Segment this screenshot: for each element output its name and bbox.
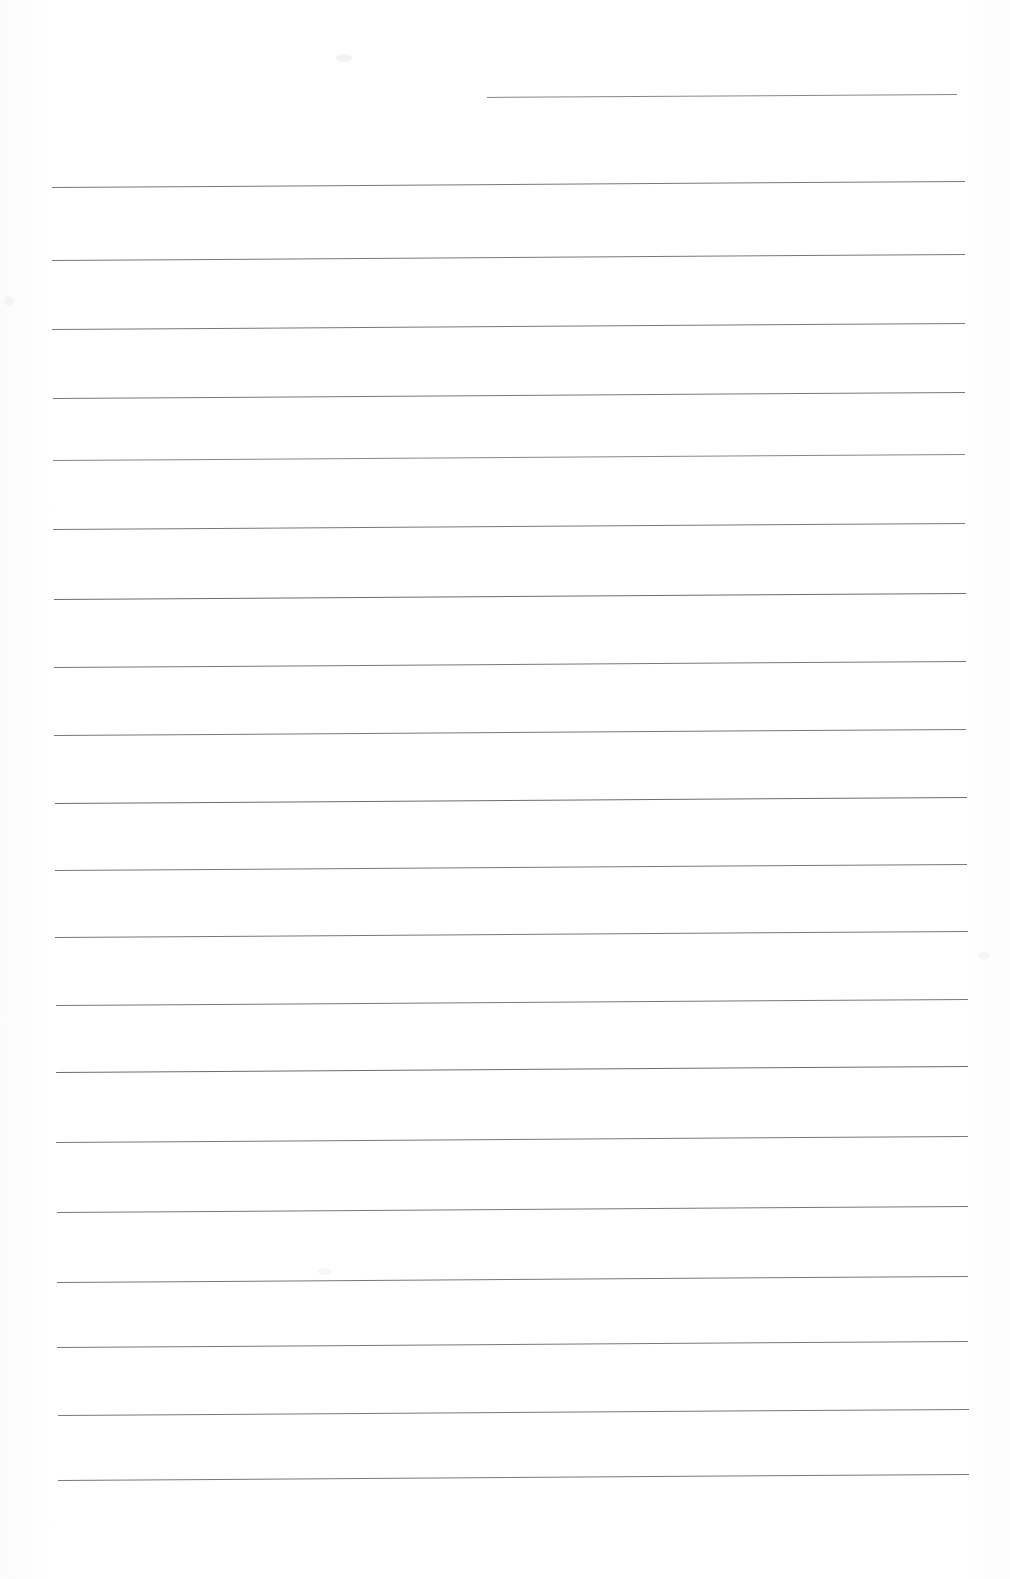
scan-smudge-lower [318,1268,332,1275]
ruled-line [56,999,968,1006]
ruled-line [54,661,966,668]
ruled-line [56,1136,968,1143]
ruled-line [54,729,966,736]
ruled-line [57,1341,968,1348]
ruled-line [58,1409,969,1416]
scan-smudge-left [4,296,14,306]
ruled-line [56,1066,968,1073]
ruled-line [52,181,965,188]
ruled-line [55,931,968,938]
ruled-line [57,1206,968,1213]
ruled-line [52,323,965,330]
ruled-line [57,1276,968,1283]
ruled-line [53,454,965,461]
scan-smudge-right [978,952,990,959]
ruled-line [58,1474,969,1481]
ruled-line [53,392,965,399]
ruled-line [55,864,967,871]
scanned-page [0,0,1010,1579]
ruled-line [487,94,957,98]
ruled-line [52,254,965,261]
ruled-line [55,797,967,804]
ruled-line [53,523,965,530]
ruled-line [54,593,966,600]
scan-smudge-top [336,54,352,62]
